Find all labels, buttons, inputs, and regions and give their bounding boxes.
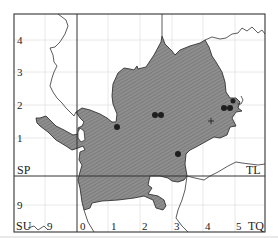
x-tick-1: 1 xyxy=(111,221,117,232)
bottom-border xyxy=(0,236,278,238)
x-tick-4: 4 xyxy=(205,221,211,232)
x-tick-0: 0 xyxy=(80,221,86,232)
y-tick-1: 1 xyxy=(17,133,23,144)
grid-square-su: SU xyxy=(16,220,31,232)
x-tick-2: 2 xyxy=(142,221,148,232)
x-tick-3: 3 xyxy=(174,221,180,232)
grid-square-tl: TL xyxy=(246,164,261,176)
grid-square-sp: SP xyxy=(17,164,30,176)
y-tick-2: 2 xyxy=(17,100,23,111)
y-tick-3: 3 xyxy=(17,67,23,78)
grid-square-tq: TQ xyxy=(248,220,264,232)
y-tick-4: 4 xyxy=(17,35,23,46)
distribution-map xyxy=(0,0,278,238)
x-tick-9: 9 xyxy=(47,221,53,232)
x-tick-5: 5 xyxy=(236,221,242,232)
y-tick-9: 9 xyxy=(17,200,23,211)
